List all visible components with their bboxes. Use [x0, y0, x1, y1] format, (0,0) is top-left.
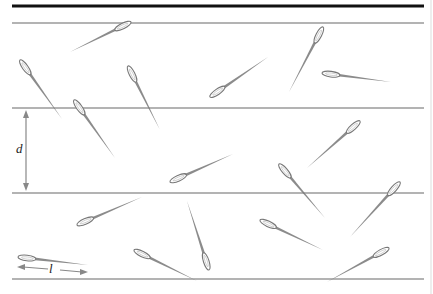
- parallel-lines: [12, 23, 424, 279]
- buffon-needle-diagram: [0, 0, 433, 294]
- needle: [125, 65, 162, 132]
- length-l-label: l: [49, 261, 53, 277]
- needle: [208, 55, 269, 100]
- needle: [348, 180, 402, 239]
- needle: [277, 162, 327, 220]
- needle: [76, 194, 143, 227]
- needle: [259, 217, 324, 252]
- spacing-d-label: d: [16, 141, 23, 157]
- needle: [18, 58, 65, 120]
- needle: [169, 151, 234, 184]
- spacing-d-arrow: [23, 110, 29, 191]
- needle: [69, 19, 132, 54]
- needle: [133, 247, 198, 283]
- needle: [18, 254, 89, 268]
- needle: [184, 200, 211, 271]
- needles: [18, 19, 402, 284]
- needle: [287, 26, 326, 94]
- needle: [305, 119, 362, 170]
- needle: [322, 70, 392, 85]
